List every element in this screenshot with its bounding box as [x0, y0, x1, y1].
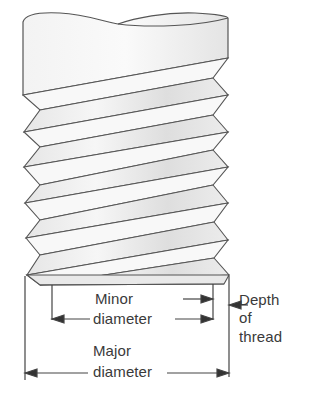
minor-diameter-label-line1: Minor [95, 288, 133, 309]
depth-of-thread-label-line2: of [239, 307, 252, 328]
thread-flanks [23, 58, 229, 285]
minor-diameter-label-line2: diameter [93, 308, 152, 329]
major-diameter-label-line2: diameter [93, 361, 152, 382]
depth-of-thread-label-line3: thread [239, 326, 282, 347]
major-diameter-label-line1: Major [93, 340, 131, 361]
